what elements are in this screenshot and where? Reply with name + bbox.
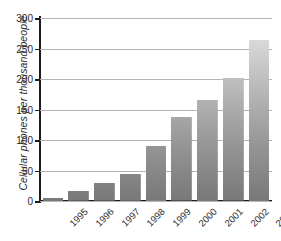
y-tick-mark [35, 140, 40, 142]
x-tick-label: 2001 [222, 206, 245, 229]
y-tick-label: 50 [22, 165, 33, 176]
y-tick-mark [35, 110, 40, 112]
y-tick-mark [35, 171, 40, 173]
x-tick-label: 2000 [196, 206, 219, 229]
bar [120, 174, 141, 201]
bar [223, 78, 244, 201]
y-tick-mark [35, 79, 40, 81]
x-tick-label: 1995 [67, 206, 90, 229]
x-tick-label: 1998 [145, 206, 168, 229]
y-tick-label: 150 [16, 104, 33, 115]
y-tick-label: 250 [16, 43, 33, 54]
bar [68, 191, 89, 201]
x-tick-label: 1996 [93, 206, 116, 229]
y-tick-mark [35, 201, 40, 203]
cellular-phones-bar-chart: Cellular phones per thousand people 0501… [0, 0, 281, 241]
bar [146, 146, 167, 201]
gridline [40, 18, 272, 19]
bar [43, 198, 64, 201]
x-tick-label: 2002 [248, 206, 271, 229]
x-tick-label: 2003 [274, 206, 281, 229]
plot-area: 050100150200250300 [40, 18, 272, 201]
y-tick-mark [35, 18, 40, 20]
gridline [40, 201, 272, 202]
bar [171, 117, 192, 201]
x-tick-label: 1999 [170, 206, 193, 229]
y-tick-label: 200 [16, 74, 33, 85]
bar [94, 183, 115, 201]
y-tick-label: 300 [16, 13, 33, 24]
bar [249, 40, 270, 201]
gridline [40, 49, 272, 50]
bar [197, 100, 218, 201]
y-tick-mark [35, 49, 40, 51]
y-tick-label: 100 [16, 135, 33, 146]
y-tick-label: 0 [27, 196, 33, 207]
x-tick-label: 1997 [119, 206, 142, 229]
